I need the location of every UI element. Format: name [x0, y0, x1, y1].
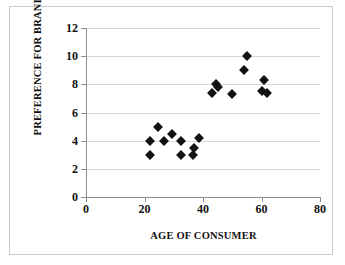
- y-axis-tick-label: 0: [48, 191, 78, 203]
- data-point: [176, 150, 186, 160]
- gridline: [86, 169, 320, 170]
- data-point: [145, 136, 155, 146]
- x-axis-tick-label: 0: [66, 203, 106, 215]
- gridline: [86, 28, 320, 29]
- x-axis-title: AGE OF CONSUMER: [86, 230, 321, 241]
- y-axis-tick-label: 12: [48, 22, 78, 34]
- y-axis-tick: [81, 56, 86, 57]
- gridline: [86, 141, 320, 142]
- y-axis-tick-label: 8: [48, 78, 78, 90]
- data-point: [159, 136, 169, 146]
- y-axis-tick-label: 10: [48, 50, 78, 62]
- y-axis-tick-labels: 024681012: [46, 7, 78, 265]
- scatter-plot: 024681012 020406080 PREFERENCE FOR BRAND…: [10, 7, 332, 254]
- y-axis-tick: [81, 28, 86, 29]
- y-axis-tick-label: 6: [48, 107, 78, 119]
- gridline: [86, 84, 320, 85]
- x-axis-tick-label: 40: [183, 203, 223, 215]
- y-axis-line: [86, 28, 87, 198]
- data-point: [153, 122, 163, 132]
- x-axis-tick-label: 20: [125, 203, 165, 215]
- y-axis-tick: [81, 169, 86, 170]
- x-axis-tick-label: 80: [300, 203, 340, 215]
- chart-frame: 024681012 020406080 PREFERENCE FOR BRAND…: [9, 6, 333, 255]
- data-point: [145, 150, 155, 160]
- y-axis-title: PREFERENCE FOR BRAND A: [32, 0, 43, 151]
- y-axis-tick-label: 2: [48, 163, 78, 175]
- y-axis-tick: [81, 113, 86, 114]
- data-point: [242, 51, 252, 61]
- x-axis-tick-label: 60: [242, 203, 282, 215]
- y-axis-tick: [81, 84, 86, 85]
- data-point: [176, 136, 186, 146]
- gridline: [86, 113, 320, 114]
- data-point: [227, 89, 237, 99]
- data-point: [262, 88, 272, 98]
- data-point: [239, 65, 249, 75]
- y-axis-tick: [81, 141, 86, 142]
- data-point: [167, 129, 177, 139]
- gridline: [86, 56, 320, 57]
- y-axis-tick-label: 4: [48, 135, 78, 147]
